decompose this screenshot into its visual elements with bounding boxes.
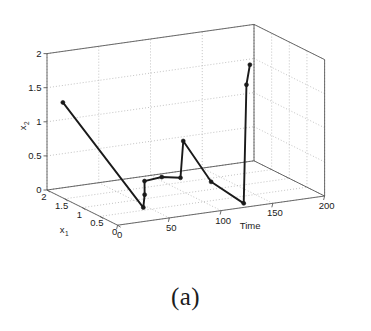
- tick-label-time: 200: [319, 200, 335, 211]
- data-point-marker: [61, 100, 65, 104]
- 3d-line-plot: 00.511.5200.511.52050100150200x2x1Time: [0, 0, 371, 331]
- axis-title-x1: x1: [60, 224, 69, 237]
- floor-grid-time: [99, 183, 170, 218]
- tick-label-x2: 1: [36, 116, 41, 127]
- tick-mark-x1: [118, 225, 121, 227]
- data-point-marker: [244, 83, 248, 87]
- axis-title-x2-text: x2: [17, 121, 30, 130]
- data-point-marker: [143, 179, 147, 183]
- floor-grid-x1: [82, 178, 289, 207]
- tick-label-x1: 1: [77, 209, 82, 220]
- tick-label-x2: 2: [36, 48, 41, 59]
- data-point-marker: [248, 63, 252, 67]
- plot-data-series: [61, 63, 252, 210]
- wall-grid-right-x2: [254, 93, 325, 128]
- tick-label-time: 150: [267, 207, 283, 218]
- figure-panel: 00.511.5200.511.52050100150200x2x1Time (…: [0, 0, 371, 331]
- tick-label-x2: 0.5: [28, 150, 41, 161]
- tick-label-x1: 0.5: [90, 217, 103, 228]
- data-point-marker: [178, 176, 182, 180]
- tick-label-x2: 1.5: [28, 82, 41, 93]
- figure-caption: (a): [0, 283, 371, 311]
- plot-tick-labels: 00.511.5200.511.52050100150200x2x1Time: [17, 48, 335, 240]
- axis-title-x2: x2: [17, 121, 30, 130]
- axis-title-time: Time: [240, 220, 261, 231]
- tick-label-time: 100: [215, 215, 231, 226]
- data-point-marker: [242, 201, 246, 205]
- axis-edge-top-x1: [254, 24, 325, 59]
- wall-grid-x2: [47, 127, 254, 156]
- plot-axes: [47, 24, 325, 225]
- axis-edge-time-back: [47, 161, 254, 190]
- data-point-marker: [209, 180, 213, 184]
- tick-label-time: 50: [166, 222, 177, 233]
- tick-label-x1: 2: [41, 191, 46, 202]
- tick-label-time: 0: [117, 229, 122, 240]
- plot-grid: [47, 24, 325, 225]
- data-point-marker: [143, 193, 147, 197]
- tick-label-x1: 1.5: [55, 200, 68, 211]
- data-line-trajectory: [63, 65, 250, 208]
- data-point-marker: [181, 139, 185, 143]
- data-point-marker: [160, 175, 164, 179]
- floor-grid-x1: [65, 170, 272, 199]
- data-point-marker: [141, 206, 145, 210]
